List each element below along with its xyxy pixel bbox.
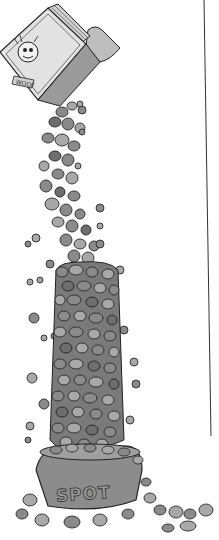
kibble-column [50,262,124,451]
dog-food-illustration: WOOF [0,0,219,540]
dog-food-bag: WOOF [0,4,120,106]
divider-line [204,0,211,436]
dog-bowl: SPOT [36,444,142,509]
bowl-label: SPOT [55,482,111,506]
